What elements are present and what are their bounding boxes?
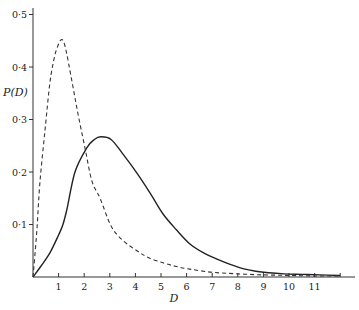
x-tick-label: 9 xyxy=(260,281,266,292)
y-tick-label: 0·1 xyxy=(12,219,27,230)
chart: 0·10·20·30·40·5 P(D) 1234567891011 D xyxy=(0,0,359,310)
x-tick-label: 7 xyxy=(209,281,215,292)
x-tick-label: 3 xyxy=(107,281,113,292)
x-tick-label: 2 xyxy=(81,281,87,292)
x-tick-label: 5 xyxy=(158,281,164,292)
series-layer xyxy=(33,40,340,277)
x-axis-title: D xyxy=(169,292,179,305)
x-tick-label: 1 xyxy=(56,281,62,292)
y-tick-label: 0·3 xyxy=(12,114,27,125)
x-tick-label: 11 xyxy=(309,281,321,292)
y-axis-title: P(D) xyxy=(2,86,28,99)
x-axis: 1234567891011 D xyxy=(33,273,355,305)
x-tick-label: 8 xyxy=(235,281,241,292)
y-axis: 0·10·20·30·40·5 P(D) xyxy=(2,8,33,277)
y-tick-label: 0·4 xyxy=(12,62,27,73)
x-tick-label: 10 xyxy=(283,281,295,292)
x-tick-label: 4 xyxy=(132,281,138,292)
y-tick-label: 0·2 xyxy=(12,167,27,178)
y-tick-label: 0·5 xyxy=(12,9,27,20)
x-tick-label: 6 xyxy=(184,281,190,292)
series-line-solid xyxy=(33,137,340,277)
